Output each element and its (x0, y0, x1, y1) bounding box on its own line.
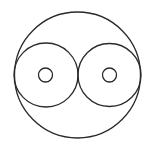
left-inner-circle (14, 43, 78, 107)
left-small-circle (39, 68, 53, 82)
right-inner-circle (78, 44, 141, 107)
right-small-circle (103, 68, 117, 82)
concentric-circles-diagram (0, 0, 154, 157)
